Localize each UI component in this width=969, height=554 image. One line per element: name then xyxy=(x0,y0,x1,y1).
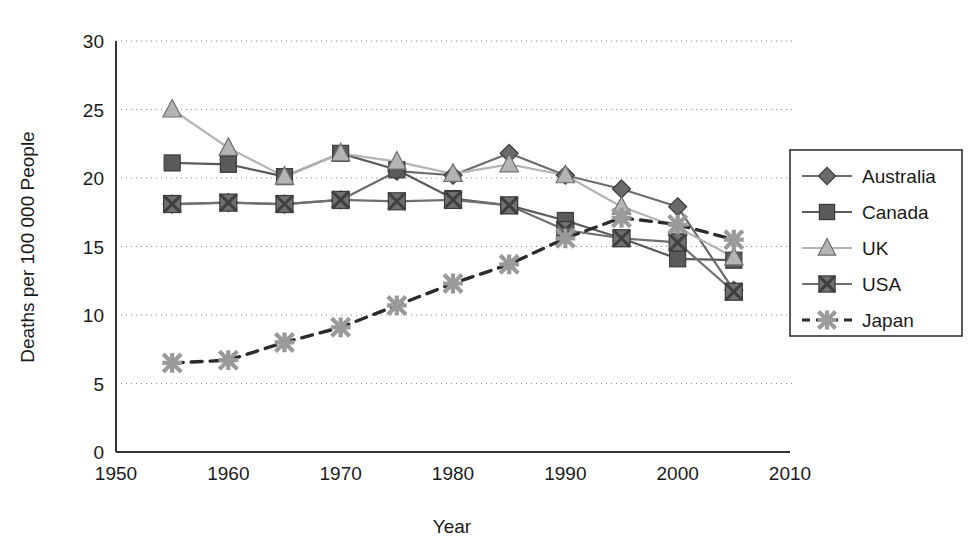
x-tick-label: 1980 xyxy=(432,463,474,484)
data-point-triangle xyxy=(163,100,181,118)
data-point-square-x xyxy=(388,193,405,210)
data-point-asterisk xyxy=(331,317,351,337)
x-tick-label: 1990 xyxy=(544,463,586,484)
data-point-asterisk xyxy=(818,311,837,330)
legend-label-usa: USA xyxy=(862,274,901,295)
legend-label-japan: Japan xyxy=(862,310,914,331)
x-tick-label: 2010 xyxy=(769,463,811,484)
data-point-square-x xyxy=(276,196,293,213)
legend-label-australia: Australia xyxy=(862,166,936,187)
data-point-square-x xyxy=(220,194,237,211)
y-tick-label: 30 xyxy=(83,31,104,52)
data-point-square-x xyxy=(501,197,518,214)
legend: AustraliaCanadaUKUSAJapan xyxy=(790,150,962,336)
data-point-square-x xyxy=(332,191,349,208)
data-point-asterisk xyxy=(668,215,688,235)
y-axis-title: Deaths per 100 000 People xyxy=(17,131,38,362)
x-tick-label: 2000 xyxy=(657,463,699,484)
data-point-triangle xyxy=(219,138,237,156)
gridlines xyxy=(116,41,796,384)
y-tick-label: 20 xyxy=(83,168,104,189)
data-point-square xyxy=(220,156,236,172)
data-point-asterisk xyxy=(443,274,463,294)
data-point-asterisk xyxy=(555,228,575,248)
y-tick-label: 10 xyxy=(83,305,104,326)
legend-label-uk: UK xyxy=(862,238,889,259)
data-point-square xyxy=(670,251,686,267)
data-point-asterisk xyxy=(499,254,519,274)
series-markers-japan xyxy=(162,208,743,373)
line-chart: 051015202530 195019601970198019902000201… xyxy=(0,0,969,554)
data-point-square-x xyxy=(445,191,462,208)
y-tick-label: 25 xyxy=(83,100,104,121)
chart-figure: 051015202530 195019601970198019902000201… xyxy=(0,0,969,554)
data-point-square-x xyxy=(725,283,742,300)
x-axis-title: Year xyxy=(433,516,472,537)
y-tick-label: 5 xyxy=(93,374,104,395)
data-point-asterisk xyxy=(218,350,238,370)
data-point-diamond xyxy=(669,198,687,216)
x-tick-label: 1960 xyxy=(207,463,249,484)
y-tick-label: 15 xyxy=(83,237,104,258)
series-layer xyxy=(162,100,743,373)
legend-item-canada[interactable]: Canada xyxy=(802,202,929,223)
data-point-square-x xyxy=(669,234,686,251)
y-tick-label: 0 xyxy=(93,442,104,463)
data-point-asterisk xyxy=(275,333,295,353)
data-point-asterisk xyxy=(162,353,182,373)
axis-lines xyxy=(116,41,790,452)
data-point-square-x xyxy=(819,276,835,292)
data-point-diamond xyxy=(613,180,631,198)
x-tick-labels: 1950196019701980199020002010 xyxy=(95,463,811,484)
data-point-asterisk xyxy=(387,296,407,316)
x-tick-label: 1950 xyxy=(95,463,137,484)
y-tick-labels: 051015202530 xyxy=(83,31,104,463)
x-tick-label: 1970 xyxy=(320,463,362,484)
data-point-square-x xyxy=(164,196,181,213)
legend-label-canada: Canada xyxy=(862,202,929,223)
data-point-asterisk xyxy=(612,208,632,228)
data-point-asterisk xyxy=(724,230,744,250)
data-point-square xyxy=(164,155,180,171)
data-point-square xyxy=(819,204,834,219)
data-point-square-x xyxy=(613,230,630,247)
